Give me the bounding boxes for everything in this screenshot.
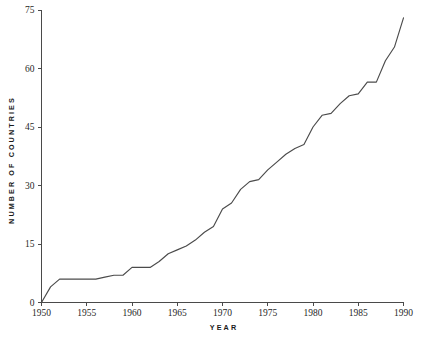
x-tick-label: 1980 <box>304 308 323 318</box>
x-tick-label: 1990 <box>394 308 413 318</box>
x-axis-tick-labels: 195019551960196519701975198019851990 <box>32 308 413 318</box>
data-series-line <box>42 18 404 303</box>
x-tick-label: 1985 <box>349 308 368 318</box>
x-tick-label: 1975 <box>258 308 277 318</box>
x-tick-label: 1970 <box>213 308 232 318</box>
chart-container: 01530456075 1950195519601965197019751980… <box>0 0 425 340</box>
y-axis-title: NUMBER OF COUNTRIES <box>7 96 16 224</box>
x-tick-label: 1965 <box>168 308 187 318</box>
y-tick-label: 15 <box>25 239 35 249</box>
y-tick-label: 30 <box>25 181 35 191</box>
y-axis-tick-labels: 01530456075 <box>25 5 35 308</box>
x-axis-title: YEAR <box>210 323 238 332</box>
x-tick-label: 1960 <box>123 308 142 318</box>
y-tick-label: 45 <box>25 122 35 132</box>
x-tick-label: 1950 <box>32 308 51 318</box>
y-tick-label: 0 <box>30 298 35 308</box>
y-tick-label: 75 <box>25 5 35 15</box>
y-tick-label: 60 <box>25 64 35 74</box>
x-tick-label: 1955 <box>77 308 96 318</box>
line-chart: 01530456075 1950195519601965197019751980… <box>0 0 425 340</box>
